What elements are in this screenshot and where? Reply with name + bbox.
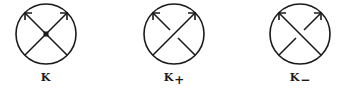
diagram-k: K [6,0,86,93]
label-k: K [6,70,86,84]
diagram-k-minus: K− [260,0,340,93]
label-k-plus: K+ [134,70,214,84]
positive-crossing-icon [134,0,214,70]
diagram-k-plus: K+ [134,0,214,93]
negative-crossing-icon [260,0,340,70]
label-k-minus: K− [260,70,340,84]
label-subscript: + [174,73,184,87]
singular-crossing-icon [6,0,86,70]
label-main: K [290,71,300,84]
label-main: K [164,71,174,84]
label-main: K [41,71,51,84]
label-subscript: − [300,73,310,87]
